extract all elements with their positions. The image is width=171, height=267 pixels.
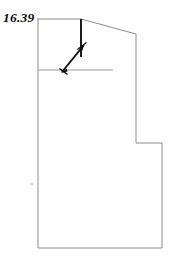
technical-drawing-canvas <box>0 0 171 267</box>
figure-container: 16.39 <box>0 0 171 267</box>
outline-polygon <box>38 19 162 248</box>
stray-dot <box>31 183 33 185</box>
